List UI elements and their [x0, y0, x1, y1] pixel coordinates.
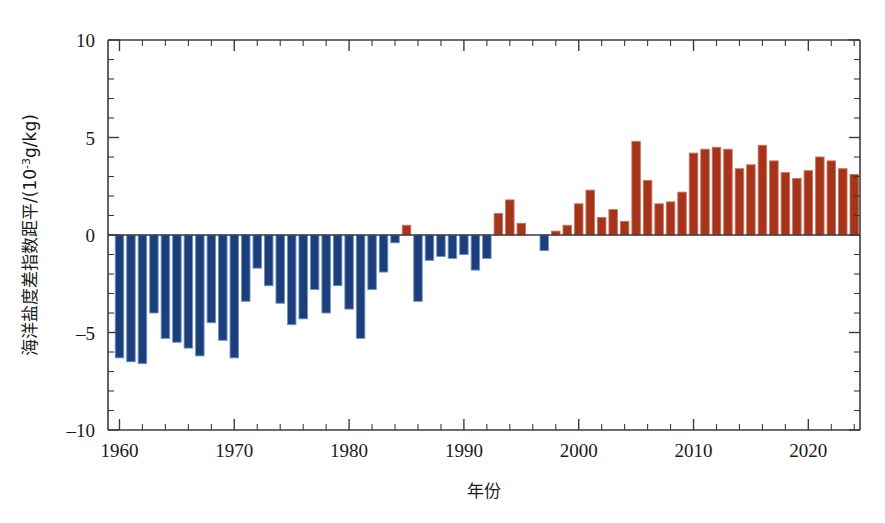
bar — [758, 145, 767, 235]
x-tick-label: 2020 — [789, 440, 827, 461]
y-tick-label: –5 — [75, 323, 95, 344]
x-tick-label: 2000 — [560, 440, 598, 461]
bar — [678, 192, 687, 235]
bar — [540, 235, 549, 251]
y-tick-label: –10 — [66, 420, 96, 441]
x-tick-label: 1960 — [100, 440, 138, 461]
bar — [471, 235, 480, 270]
bar — [368, 235, 377, 290]
bar — [770, 161, 779, 235]
bar — [150, 235, 159, 313]
bar — [655, 204, 664, 235]
y-axis-title: 海洋盐度差指数距平/(10-3g/kg) — [20, 114, 40, 356]
bar — [632, 141, 641, 235]
bar — [517, 223, 526, 235]
x-tick-label: 1990 — [445, 440, 483, 461]
chart-figure: –10–50510 1960197019801990200020102020 海… — [0, 0, 885, 523]
bar — [196, 235, 205, 356]
bar — [333, 235, 342, 286]
bar — [597, 217, 606, 235]
x-tick-label: 1970 — [215, 440, 253, 461]
bar — [804, 171, 813, 235]
bar — [816, 157, 825, 235]
bar — [287, 235, 296, 325]
bar — [437, 235, 446, 256]
bar — [242, 235, 251, 301]
bar — [574, 204, 583, 235]
bar — [506, 200, 514, 235]
bar — [414, 235, 423, 301]
bar — [173, 235, 182, 342]
bar — [345, 235, 354, 309]
bar — [494, 214, 503, 235]
bar — [138, 235, 147, 364]
bar — [643, 180, 652, 235]
bar — [161, 235, 170, 338]
bar — [620, 221, 629, 235]
bar — [448, 235, 457, 258]
bar — [115, 235, 124, 358]
bar — [460, 235, 469, 255]
bar — [322, 235, 331, 313]
bar — [402, 225, 411, 235]
bar — [712, 147, 721, 235]
bar — [391, 235, 400, 243]
salinity-anomaly-bar-chart: –10–50510 1960197019801990200020102020 海… — [0, 0, 885, 523]
bar — [127, 235, 135, 362]
y-tick-label: 0 — [86, 225, 96, 246]
x-tick-label: 2010 — [675, 440, 713, 461]
bar — [839, 169, 848, 235]
bar — [850, 175, 859, 235]
bar — [230, 235, 239, 358]
y-tick-label: 10 — [76, 30, 95, 51]
bar — [425, 235, 434, 260]
bar — [264, 235, 273, 286]
bar — [735, 169, 744, 235]
bar — [609, 210, 618, 235]
y-axis-tick-labels: –10–50510 — [66, 30, 96, 441]
bar — [701, 149, 710, 235]
x-axis-tick-labels: 1960197019801990200020102020 — [100, 440, 827, 461]
bar — [827, 161, 836, 235]
bar — [379, 235, 388, 272]
bar — [666, 202, 675, 235]
bar — [253, 235, 262, 268]
bar — [276, 235, 285, 303]
bar — [689, 153, 698, 235]
x-axis-title-label: 年份 — [467, 481, 501, 501]
bar — [310, 235, 319, 290]
bar — [563, 225, 572, 235]
bar — [356, 235, 365, 338]
bar — [781, 173, 790, 235]
bar — [207, 235, 216, 323]
bar — [219, 235, 228, 340]
bar — [299, 235, 308, 319]
bar — [184, 235, 193, 348]
bar — [724, 149, 733, 235]
x-tick-label: 1980 — [330, 440, 368, 461]
bar — [586, 190, 595, 235]
y-tick-label: 5 — [86, 128, 96, 149]
bar — [483, 235, 492, 258]
y-axis-title-label: 海洋盐度差指数距平/(10-3g/kg) — [20, 114, 40, 356]
bar — [747, 165, 756, 235]
bar — [793, 178, 802, 235]
